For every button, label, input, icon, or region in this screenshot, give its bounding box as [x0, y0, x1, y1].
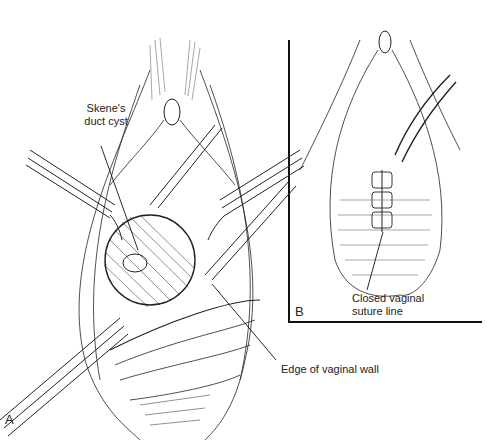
label-line: duct cyst: [60, 115, 152, 128]
closed-suture-line-label: Closed vaginal suture line: [352, 292, 424, 318]
panel-b-drawing: [0, 0, 501, 446]
panel-a-letter: A: [5, 412, 14, 427]
label-line: Closed vaginal: [352, 292, 424, 305]
surgical-illustration: Skene's duct cyst Edge of vaginal wall C…: [0, 0, 501, 446]
label-line: Skene's: [60, 102, 152, 115]
skene-duct-cyst-label: Skene's duct cyst: [60, 102, 152, 128]
edge-of-vaginal-wall-label: Edge of vaginal wall: [281, 363, 379, 376]
label-line: suture line: [352, 305, 424, 318]
panel-b-letter: B: [295, 304, 304, 319]
